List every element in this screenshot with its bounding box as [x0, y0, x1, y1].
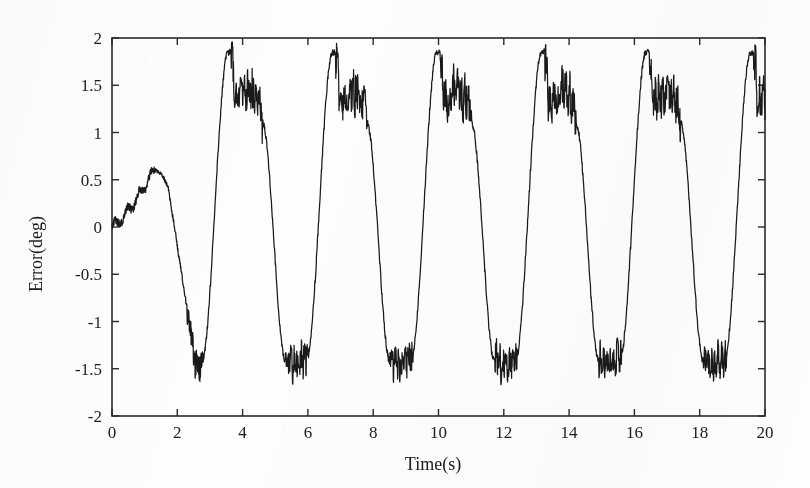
y-tick-label: 1.5 — [81, 76, 102, 95]
x-tick-label: 10 — [430, 423, 447, 442]
x-tick-label: 14 — [561, 423, 579, 442]
y-tick-label: 1 — [94, 124, 103, 143]
error-trace-line — [112, 42, 765, 385]
y-axis-title: Error(deg) — [26, 216, 47, 292]
x-tick-label: 6 — [304, 423, 313, 442]
x-tick-label: 4 — [238, 423, 247, 442]
y-tick-label: -0.5 — [75, 265, 102, 284]
x-tick-label: 0 — [108, 423, 117, 442]
y-tick-label: 2 — [94, 29, 103, 48]
y-axis-tick-labels: -2-1.5-1-0.500.511.52 — [75, 29, 102, 426]
x-tick-label: 2 — [173, 423, 182, 442]
y-tick-label: 0 — [94, 218, 103, 237]
x-tick-label: 8 — [369, 423, 378, 442]
error-vs-time-chart: 02468101214161820 -2-1.5-1-0.500.511.52 … — [0, 0, 810, 488]
x-tick-label: 20 — [757, 423, 774, 442]
y-tick-label: -2 — [88, 407, 102, 426]
x-tick-label: 12 — [495, 423, 512, 442]
x-tick-label: 18 — [691, 423, 708, 442]
x-tick-label: 16 — [626, 423, 643, 442]
data-series-group — [112, 42, 765, 385]
y-tick-label: -1.5 — [75, 360, 102, 379]
x-axis-title: Time(s) — [405, 454, 461, 475]
x-axis-tick-labels: 02468101214161820 — [108, 423, 774, 442]
y-tick-label: -1 — [88, 313, 102, 332]
y-tick-label: 0.5 — [81, 171, 102, 190]
figure-page: 02468101214161820 -2-1.5-1-0.500.511.52 … — [0, 0, 810, 488]
